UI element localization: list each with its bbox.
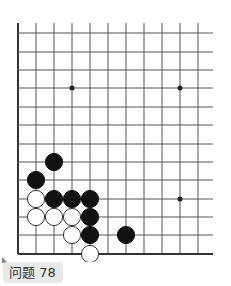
- black-stone[interactable]: [81, 190, 98, 207]
- black-stone[interactable]: [81, 226, 98, 243]
- black-stone[interactable]: [63, 190, 80, 207]
- problem-label: 问题 78: [3, 262, 63, 283]
- white-stone[interactable]: [81, 245, 98, 262]
- white-stone[interactable]: [63, 226, 80, 243]
- black-stone[interactable]: [45, 190, 62, 207]
- star-point-icon: [178, 197, 183, 202]
- star-point-icon: [178, 86, 183, 91]
- black-stone[interactable]: [81, 208, 98, 225]
- go-board[interactable]: [0, 0, 231, 262]
- white-stone[interactable]: [45, 208, 62, 225]
- black-stone[interactable]: [45, 153, 62, 170]
- black-stone[interactable]: [117, 226, 134, 243]
- black-stone[interactable]: [27, 171, 44, 188]
- white-stone[interactable]: [63, 208, 80, 225]
- white-stone[interactable]: [27, 208, 44, 225]
- problem-title: 问题 78: [9, 265, 56, 280]
- white-stone[interactable]: [27, 190, 44, 207]
- star-point-icon: [70, 86, 75, 91]
